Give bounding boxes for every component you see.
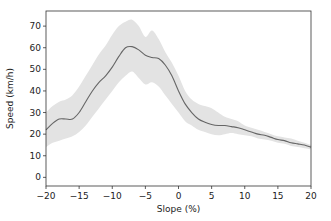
speed-vs-slope-chart: −20−15−10−505101520 010203040506070 Slop… xyxy=(0,0,331,221)
x-tick-label: 15 xyxy=(272,191,283,201)
x-axis-label: Slope (%) xyxy=(157,204,200,214)
x-tick-label: −20 xyxy=(37,191,56,201)
x-tick-label: 5 xyxy=(209,191,215,201)
x-tick-label: 20 xyxy=(305,191,317,201)
y-tick-label: 30 xyxy=(30,108,42,118)
x-tick-label: −10 xyxy=(103,191,122,201)
y-tick-label: 0 xyxy=(35,172,41,182)
y-axis-label: Speed (km/h) xyxy=(5,68,15,129)
x-tick-label: 10 xyxy=(239,191,251,201)
y-tick-label: 20 xyxy=(30,129,42,139)
y-tick-label: 40 xyxy=(30,86,42,96)
y-tick-label: 50 xyxy=(30,64,42,74)
x-tick-label: −15 xyxy=(70,191,89,201)
x-tick-label: 0 xyxy=(176,191,182,201)
y-tick-label: 70 xyxy=(30,21,42,31)
x-tick-label: −5 xyxy=(139,191,152,201)
y-tick-label: 60 xyxy=(30,43,42,53)
y-tick-label: 10 xyxy=(30,151,42,161)
